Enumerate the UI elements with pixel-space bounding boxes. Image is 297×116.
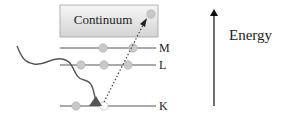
- arrow-up-icon: [210, 9, 218, 16]
- electron-k-1: [72, 102, 80, 110]
- photon-arrowhead-icon: [89, 96, 102, 106]
- shell-m: M: [60, 41, 170, 55]
- electron-l-1: [77, 61, 85, 69]
- electron-l-3: [124, 61, 132, 69]
- energy-label: Energy: [229, 27, 273, 43]
- shell-l-label: L: [159, 58, 166, 72]
- continuum-label: Continuum: [74, 12, 133, 27]
- electron-m-1: [99, 44, 107, 52]
- electron-l-2: [100, 61, 108, 69]
- shell-m-label: M: [159, 41, 170, 55]
- ejected-electron: [147, 10, 155, 18]
- shell-l: L: [60, 58, 166, 72]
- energy-axis: Energy: [210, 9, 273, 106]
- photoelectric-diagram: Continuum M L K Energy: [0, 0, 297, 116]
- continuum-box: Continuum: [60, 5, 158, 37]
- incident-photon: [17, 46, 102, 106]
- shell-k-label: K: [159, 99, 168, 113]
